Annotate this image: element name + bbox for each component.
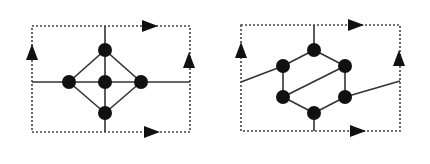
lattice-node bbox=[276, 90, 290, 104]
lattice-node bbox=[338, 59, 352, 73]
lattice-node bbox=[134, 75, 148, 89]
lattice-node bbox=[98, 106, 112, 120]
lattice-node bbox=[98, 75, 112, 89]
lattice-node bbox=[62, 75, 76, 89]
lattice-node bbox=[338, 90, 352, 104]
lattice-node bbox=[98, 43, 112, 57]
lattice-node bbox=[276, 59, 290, 73]
lattice-node bbox=[307, 43, 321, 57]
lattice-node bbox=[307, 106, 321, 120]
periodic-lattice-diagram bbox=[0, 0, 430, 164]
